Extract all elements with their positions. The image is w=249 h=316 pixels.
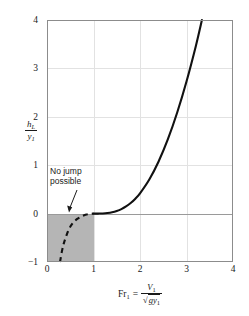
x-axis-label-numerator: V1 (141, 282, 162, 293)
x-tick-4: 4 (231, 264, 236, 274)
y-axis-label-numerator: hL (25, 119, 37, 130)
y-tick-minus-1: −1 (28, 257, 38, 267)
y-axis-label-denominator: y1 (25, 130, 37, 142)
y-tick-4: 4 (33, 15, 38, 25)
annotation-line-1: No jump (50, 166, 112, 176)
y-axis-label: hL y1 (16, 119, 46, 142)
annotation-no-jump-possible: No jump possible (50, 166, 112, 186)
x-axis-label-lhs: Fr1 (118, 289, 130, 300)
figure-container: 4 3 2 1 0 −1 0 1 2 3 4 hL y1 Fr1 = V1 √g… (0, 0, 249, 316)
annotation-arrow-icon (47, 20, 233, 262)
x-tick-2: 2 (138, 264, 143, 274)
x-tick-0: 0 (45, 264, 50, 274)
x-axis-label-equals: = (133, 289, 138, 300)
y-tick-3: 3 (33, 63, 38, 73)
y-tick-1: 1 (33, 160, 38, 170)
x-axis-label: Fr1 = V1 √gy1 (47, 282, 233, 306)
x-axis-label-fraction: V1 √gy1 (141, 282, 162, 306)
x-axis-label-denominator: √gy1 (141, 293, 162, 306)
y-tick-0: 0 (33, 209, 38, 219)
annotation-line-2: possible (50, 176, 112, 186)
x-axis-tick-labels: 0 1 2 3 4 (47, 263, 233, 277)
y-axis-label-fraction: hL y1 (25, 119, 37, 142)
x-tick-3: 3 (184, 264, 189, 274)
x-tick-1: 1 (91, 264, 96, 274)
